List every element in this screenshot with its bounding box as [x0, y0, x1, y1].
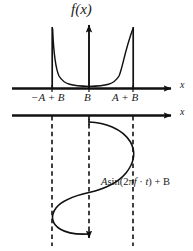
tick-label-minus-a-plus-b: −A + B: [31, 92, 65, 103]
tick-label-b: B: [84, 92, 91, 103]
tick-label-a-plus-b: A + B: [112, 92, 138, 103]
arcsine-distribution-figure: f(x) x x −A + B B A + B Asin(2πf · t) + …: [0, 0, 193, 251]
arcsine-density-curve: [53, 29, 133, 86]
top-plot-y-axis-label: f(x): [71, 2, 92, 17]
top-plot-x-axis-label: x: [180, 80, 184, 90]
eq-plus-b: + B: [152, 176, 170, 187]
eq-sin: sin: [107, 176, 119, 187]
sine-equation-label: Asin(2πf · t) + B: [101, 177, 170, 188]
bottom-plot-x-axis-label: x: [180, 107, 184, 117]
figure-drawing: [0, 0, 193, 251]
